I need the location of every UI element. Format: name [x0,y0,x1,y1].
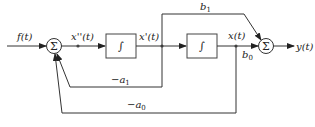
gain-b0-label: b0 [242,49,253,62]
input-label: f(t) [16,31,33,42]
integral-icon: ∫ [118,40,124,53]
integrator-2: ∫ [187,34,217,58]
sigma-icon: Σ [262,40,270,53]
junction-dot [76,44,79,47]
signal-x2-label: x''(t) [71,31,94,42]
gain-a1-label: −a1 [111,74,130,87]
integral-icon: ∫ [199,40,205,53]
gain-a0-label: −a0 [127,99,146,112]
sigma-icon: Σ [50,40,58,53]
signal-x0-label: x(t) [228,30,246,41]
gain-b1-label: b1 [200,1,211,14]
signal-x1-label: x'(t) [139,31,159,42]
summer-1: Σ [47,39,62,54]
block-diagram: f(t) Σ x''(t) ∫ x'(t) ∫ x(t) b0 Σ y(t) b… [0,0,315,127]
integrator-1: ∫ [106,34,136,58]
summer-2: Σ [259,39,274,54]
output-label: y(t) [295,41,314,52]
